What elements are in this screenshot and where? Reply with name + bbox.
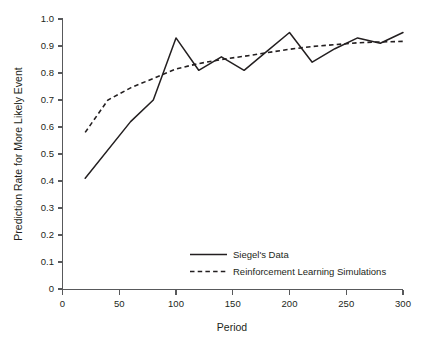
legend-entry-siegels-data: Siegel's Data — [190, 249, 289, 260]
legend-label-siegels-data: Siegel's Data — [233, 249, 289, 260]
chart-series-group — [85, 33, 403, 179]
y-axis-ticks: 00.10.20.30.40.50.60.70.80.91.0 — [41, 13, 63, 294]
x-tick-label: 0 — [60, 298, 65, 309]
x-tick-label: 150 — [225, 298, 241, 309]
y-axis-title: Prediction Rate for More Likely Event — [12, 67, 24, 240]
y-tick-label: 0.6 — [41, 121, 54, 132]
chart-legend: Siegel's Data Reinforcement Learning Sim… — [190, 249, 386, 277]
x-tick-label: 250 — [338, 298, 354, 309]
x-tick-label: 200 — [282, 298, 298, 309]
x-axis-ticks: 050100150200250300 — [60, 290, 411, 310]
legend-entry-reinforcement-learning-simulations: Reinforcement Learning Simulations — [190, 266, 386, 277]
y-tick-label: 0.7 — [41, 94, 54, 105]
y-tick-label: 1.0 — [41, 13, 54, 24]
y-tick-label: 0.3 — [41, 202, 54, 213]
series-line-siegel-s-data — [85, 33, 403, 179]
x-tick-label: 50 — [114, 298, 125, 309]
y-tick-label: 0.1 — [41, 256, 54, 267]
y-tick-label: 0.5 — [41, 148, 54, 159]
legend-label-reinforcement-learning-simulations: Reinforcement Learning Simulations — [233, 266, 386, 277]
line-chart: 00.10.20.30.40.50.60.70.80.91.0 05010015… — [0, 0, 430, 345]
x-tick-label: 300 — [395, 298, 411, 309]
x-axis-title: Period — [217, 321, 248, 333]
y-tick-label: 0.9 — [41, 40, 54, 51]
x-tick-label: 100 — [168, 298, 184, 309]
chart-figure: 00.10.20.30.40.50.60.70.80.91.0 05010015… — [0, 0, 430, 345]
y-tick-label: 0.8 — [41, 67, 54, 78]
y-tick-label: 0 — [49, 283, 54, 294]
y-tick-label: 0.2 — [41, 229, 54, 240]
y-tick-label: 0.4 — [41, 175, 54, 186]
